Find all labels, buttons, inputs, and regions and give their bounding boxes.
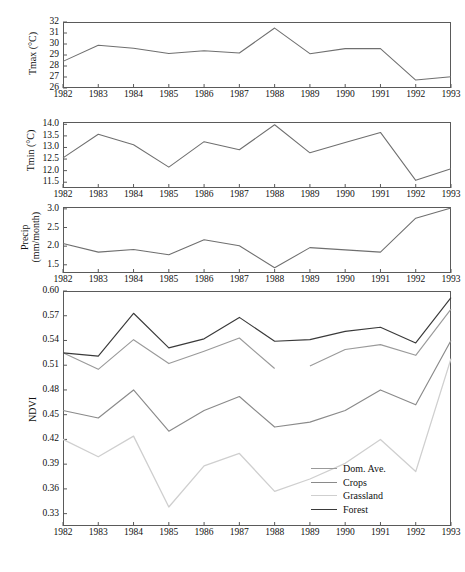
plot-tmax [63,22,451,88]
y-tick-label: 27 [29,72,59,82]
panel-tmin: Tmin (°C) 11.512.012.513.013.514.0198219… [0,105,465,190]
legend-item: Grassland [311,489,386,503]
y-tick-label: 30 [29,39,59,49]
y-tick-label: 29 [29,50,59,60]
data-series-line [63,28,451,80]
plot-tmin [63,122,451,188]
y-tick-label: 2.5 [29,223,59,233]
data-series-line [63,338,275,369]
y-tick-label: 0.39 [29,459,59,469]
climate-ndvi-figure: Tmax (°C) 262728293031321982198319841985… [0,0,465,572]
x-tick-label: 1987 [221,528,257,538]
data-series-line [63,208,451,268]
legend-ndvi: Dom. Ave.CropsGrasslandForest [311,462,386,516]
y-tick-label: 0.33 [29,509,59,519]
x-tick-label: 1989 [292,528,328,538]
y-tick-label: 12.5 [29,154,59,164]
x-tick-label: 1983 [80,90,116,100]
x-tick-label: 1989 [292,90,328,100]
x-tick-label: 1993 [433,528,465,538]
legend-item: Forest [311,503,386,517]
x-tick-label: 1985 [151,90,187,100]
x-tick-label: 1992 [398,90,434,100]
legend-label: Crops [343,477,367,488]
y-tick-label: 14.0 [29,119,59,129]
legend-item: Dom. Ave. [311,462,386,476]
plot-ndvi [63,291,451,526]
legend-swatch [311,509,337,510]
x-tick-label: 1990 [327,528,363,538]
legend-swatch [311,495,337,496]
y-tick-label: 0.36 [29,484,59,494]
x-tick-label: 1984 [116,90,152,100]
x-tick-label: 1993 [433,90,465,100]
x-tick-label: 1986 [186,90,222,100]
legend-label: Dom. Ave. [343,463,386,474]
y-tick-label: 1.5 [29,260,59,270]
y-tick-label: 12.0 [29,166,59,176]
x-tick-label: 1991 [362,528,398,538]
panel-precip: Precip (mm/month) 1.52.02.53.01982198319… [0,190,465,276]
y-tick-label: 0.60 [29,286,59,296]
y-tick-label: 13.5 [29,131,59,141]
x-tick-label: 1991 [362,90,398,100]
y-tick-label: 28 [29,61,59,71]
panel-ndvi: NDVI Dom. Ave.CropsGrasslandForest 0.330… [0,276,465,572]
x-tick-label: 1982 [45,90,81,100]
data-series-line [310,309,451,366]
legend-swatch [311,482,337,483]
legend-item: Crops [311,476,386,490]
y-tick-label: 0.42 [29,434,59,444]
y-tick-label: 2.0 [29,241,59,251]
y-tick-label: 32 [29,17,59,27]
axis-title-precip-text: Precip (mm/month) [19,212,41,263]
x-tick-label: 1988 [257,528,293,538]
data-series-line [63,298,451,357]
x-tick-label: 1983 [80,528,116,538]
legend-label: Grassland [343,490,383,501]
y-tick-label: 3.0 [29,204,59,214]
data-series-line [63,340,451,431]
y-tick-label: 31 [29,28,59,38]
plot-precip [63,207,451,273]
x-tick-label: 1987 [221,90,257,100]
x-tick-label: 1986 [186,528,222,538]
y-tick-label: 0.54 [29,335,59,345]
legend-label: Forest [343,504,368,515]
x-tick-label: 1984 [116,528,152,538]
y-tick-label: 0.48 [29,385,59,395]
y-tick-label: 13.0 [29,142,59,152]
panel-tmax: Tmax (°C) 262728293031321982198319841985… [0,0,465,105]
y-tick-label: 11.5 [29,177,59,187]
data-series-line [63,125,451,181]
legend-swatch [311,468,337,469]
y-tick-label: 0.45 [29,410,59,420]
x-tick-label: 1992 [398,528,434,538]
y-tick-label: 0.57 [29,311,59,321]
y-tick-label: 0.51 [29,360,59,370]
x-tick-label: 1982 [45,528,81,538]
x-tick-label: 1988 [257,90,293,100]
x-tick-label: 1990 [327,90,363,100]
x-tick-label: 1985 [151,528,187,538]
data-series-line [63,359,451,507]
